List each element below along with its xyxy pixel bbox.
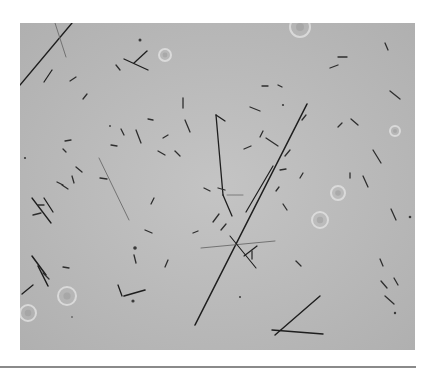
- dot: [409, 216, 412, 219]
- halo-core: [335, 190, 341, 196]
- dot: [24, 157, 26, 159]
- halo-core: [25, 310, 31, 316]
- halo-core: [317, 217, 323, 223]
- halo-core: [296, 23, 304, 31]
- dot: [282, 104, 284, 106]
- micrograph-background: [20, 23, 415, 350]
- halo-core: [63, 292, 70, 299]
- bottom-divider-rule: [0, 366, 416, 368]
- halo-core: [163, 53, 168, 58]
- halo-core: [393, 129, 397, 133]
- micrograph-image: [20, 23, 415, 350]
- dot: [71, 316, 73, 318]
- dot: [394, 312, 396, 314]
- dot: [133, 246, 137, 250]
- dot: [239, 296, 241, 298]
- dot: [139, 39, 142, 42]
- dot: [109, 125, 111, 127]
- dot: [131, 299, 134, 302]
